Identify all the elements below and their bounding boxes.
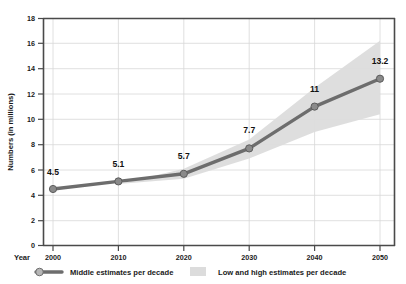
data-label-2040: 11	[310, 84, 319, 94]
legend-label-middle-estimates: Middle estimates per decade	[70, 268, 173, 277]
x-tick-label-2040: 2040	[307, 253, 323, 262]
chart-figure: 4.5 5.1 5.7 7.7 11 13.2 18 16 14	[0, 0, 406, 284]
legend-marker-middle-estimates	[36, 268, 62, 276]
x-tick-label-2010: 2010	[110, 253, 126, 262]
y-tick-label-14: 14	[27, 64, 35, 73]
data-label-2020: 5.7	[178, 151, 190, 161]
data-label-2010: 5.1	[112, 159, 124, 169]
y-axis-ticks	[38, 19, 43, 246]
y-tick-label-18: 18	[27, 14, 35, 23]
y-tick-label-6: 6	[31, 166, 35, 175]
y-axis-title: Numbers (in millions)	[6, 93, 15, 171]
y-tick-label-4: 4	[31, 191, 35, 200]
y-tick-label-2: 2	[31, 216, 35, 225]
x-axis-title: Year	[14, 253, 30, 262]
x-axis-ticks	[53, 246, 380, 251]
y-tick-label-8: 8	[31, 140, 35, 149]
y-tick-label-10: 10	[27, 115, 35, 124]
x-tick-label-2000: 2000	[45, 253, 61, 262]
line-chart: 4.5 5.1 5.7 7.7 11 13.2 18 16 14	[0, 0, 406, 284]
chart-legend: Middle estimates per decade Low and high…	[36, 267, 347, 277]
data-label-2050: 13.2	[372, 56, 389, 66]
y-tick-label-12: 12	[27, 90, 35, 99]
plot-background	[43, 18, 395, 246]
y-tick-label-16: 16	[27, 39, 35, 48]
x-tick-label-2030: 2030	[241, 253, 257, 262]
y-tick-label-0: 0	[31, 241, 35, 250]
data-label-2030: 7.7	[243, 125, 255, 135]
data-label-2000: 4.5	[47, 167, 59, 177]
legend-label-low-high-estimates: Low and high estimates per decade	[218, 268, 346, 277]
x-tick-label-2050: 2050	[372, 253, 388, 262]
legend-marker-low-high-estimates	[190, 267, 206, 276]
x-tick-label-2020: 2020	[176, 253, 192, 262]
